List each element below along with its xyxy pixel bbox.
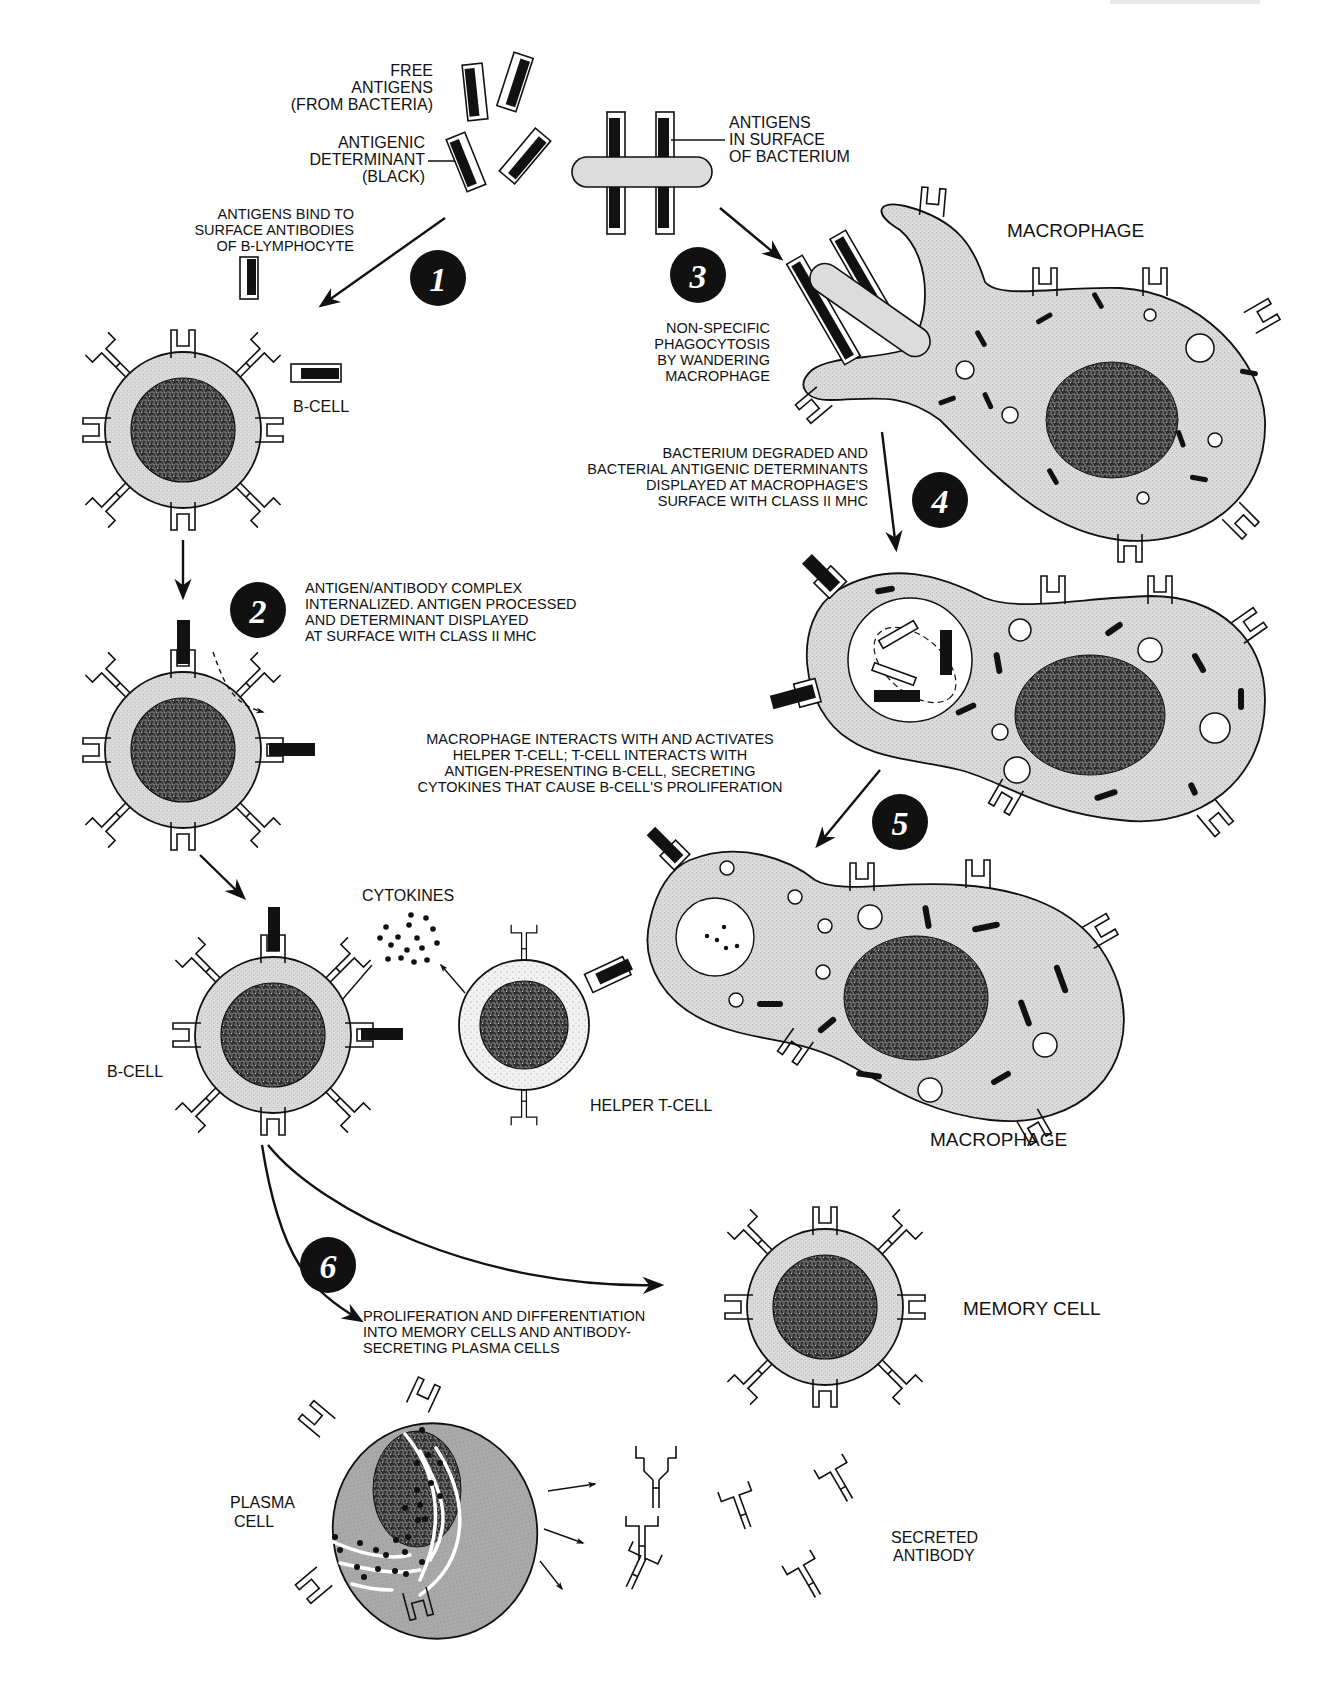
svg-text:1: 1	[430, 261, 447, 298]
svg-text:BY WANDERING: BY WANDERING	[657, 352, 770, 368]
diagram-canvas: FREE ANTIGENS (FROM BACTERIA) ANTIGENIC …	[0, 0, 1334, 1692]
cytokine-secretion-arrow	[441, 965, 465, 993]
interaction-note: MACROPHAGE INTERACTS WITH AND ACTIVATES …	[418, 731, 783, 795]
svg-text:MACROPHAGE INTERACTS WITH AND: MACROPHAGE INTERACTS WITH AND ACTIVATES	[426, 731, 774, 747]
macrophage-2	[769, 550, 1267, 836]
b-cell-1-label: B-CELL	[293, 398, 349, 415]
svg-text:5: 5	[892, 805, 909, 842]
svg-text:MACROPHAGE: MACROPHAGE	[665, 368, 770, 384]
step-1-badge: 1	[410, 250, 466, 306]
svg-text:DETERMINANT: DETERMINANT	[309, 151, 425, 168]
svg-text:6: 6	[320, 1248, 337, 1285]
b-cell-1	[83, 257, 341, 530]
step-2-badge: 2	[230, 582, 286, 638]
b-cell-3	[173, 907, 403, 1135]
svg-text:ANTIGENIC: ANTIGENIC	[338, 134, 425, 151]
svg-text:CYTOKINES THAT CAUSE B-CELL'S: CYTOKINES THAT CAUSE B-CELL'S PROLIFERAT…	[418, 779, 783, 795]
free-antigen-icons	[446, 52, 550, 191]
step-4-badge: 4	[912, 472, 968, 528]
svg-text:ANTIGEN-PRESENTING B-CELL, SEC: ANTIGEN-PRESENTING B-CELL, SECRETING	[445, 763, 756, 779]
svg-text:OF BACTERIUM: OF BACTERIUM	[729, 148, 850, 165]
svg-text:SECRETED: SECRETED	[891, 1529, 978, 1546]
svg-text:PROLIFERATION AND DIFFERENTIAT: PROLIFERATION AND DIFFERENTIATION	[363, 1308, 645, 1324]
internalized-note: ANTIGEN/ANTIBODY COMPLEX INTERNALIZED. A…	[305, 580, 577, 644]
step-6-badge: 6	[300, 1237, 356, 1293]
svg-text:ANTIGENS BIND TO: ANTIGENS BIND TO	[218, 206, 354, 222]
svg-text:(BLACK): (BLACK)	[362, 168, 425, 185]
immune-response-diagram: FREE ANTIGENS (FROM BACTERIA) ANTIGENIC …	[0, 0, 1334, 1692]
svg-text:INTERNALIZED. ANTIGEN PROCESS: INTERNALIZED. ANTIGEN PROCESSED	[305, 596, 577, 612]
helper-t-cell-label: HELPER T-CELL	[590, 1097, 713, 1114]
svg-text:ANTIGENS: ANTIGENS	[729, 114, 811, 131]
svg-text:ANTIBODY: ANTIBODY	[893, 1547, 975, 1564]
bind-note: ANTIGENS BIND TO SURFACE ANTIBODIES OF B…	[194, 206, 354, 254]
svg-text:PLASMA: PLASMA	[230, 1494, 295, 1511]
svg-text:AND DETERMINANT DISPLAYED: AND DETERMINANT DISPLAYED	[305, 612, 528, 628]
cytokine-particles	[377, 912, 440, 965]
svg-text:OF B-LYMPHOCYTE: OF B-LYMPHOCYTE	[217, 238, 355, 254]
step-3-badge: 3	[670, 247, 726, 303]
svg-text:BACTERIUM DEGRADED AND: BACTERIUM DEGRADED AND	[663, 445, 868, 461]
arrow-step-4	[882, 432, 896, 548]
memory-cell	[725, 1207, 925, 1407]
svg-text:PHAGOCYTOSIS: PHAGOCYTOSIS	[654, 336, 770, 352]
b-cell-2	[83, 620, 315, 850]
bacterium-icon	[572, 112, 712, 234]
svg-text:CELL: CELL	[234, 1513, 274, 1530]
step-5-badge: 5	[872, 794, 928, 850]
svg-text:ANTIGEN/ANTIBODY COMPLEX: ANTIGEN/ANTIBODY COMPLEX	[305, 580, 523, 596]
svg-text:AT SURFACE WITH CLASS II MHC: AT SURFACE WITH CLASS II MHC	[305, 628, 537, 644]
svg-text:SECRETING PLASMA CELLS: SECRETING PLASMA CELLS	[363, 1340, 560, 1356]
antigenic-determinant-label: ANTIGENIC DETERMINANT (BLACK)	[309, 134, 466, 185]
plasma-cell	[295, 1377, 557, 1658]
secreted-antibodies	[614, 1446, 863, 1604]
svg-text:BACTERIAL ANTIGENIC DETERMINAN: BACTERIAL ANTIGENIC DETERMINANTS	[587, 461, 868, 477]
svg-text:(FROM BACTERIA): (FROM BACTERIA)	[291, 96, 433, 113]
phagocytosis-note: NON-SPECIFIC PHAGOCYTOSIS BY WANDERING M…	[654, 320, 770, 384]
svg-text:SURFACE ANTIBODIES: SURFACE ANTIBODIES	[194, 222, 354, 238]
svg-text:4: 4	[931, 483, 949, 520]
plasma-cell-label: PLASMA CELL	[230, 1494, 295, 1530]
arrow-to-plasma-cell	[262, 1145, 360, 1320]
memory-cell-label: MEMORY CELL	[963, 1298, 1101, 1319]
cytokines-label: CYTOKINES	[362, 887, 454, 904]
arrow-step-5	[818, 770, 880, 845]
secreted-antibody-label: SECRETED ANTIBODY	[891, 1529, 978, 1564]
degraded-note: BACTERIUM DEGRADED AND BACTERIAL ANTIGEN…	[587, 445, 868, 509]
svg-text:3: 3	[689, 258, 707, 295]
macrophage-3	[643, 823, 1124, 1145]
svg-text:SURFACE WITH CLASS II MHC: SURFACE WITH CLASS II MHC	[658, 493, 868, 509]
arrow-step-3	[720, 208, 780, 258]
macrophage-bottom-label: MACROPHAGE	[930, 1129, 1067, 1150]
svg-text:IN SURFACE: IN SURFACE	[729, 131, 825, 148]
svg-text:DISPLAYED AT MACROPHAGE'S: DISPLAYED AT MACROPHAGE'S	[646, 477, 868, 493]
svg-text:ANTIGENS: ANTIGENS	[351, 79, 433, 96]
macrophage-top-label: MACROPHAGE	[1007, 220, 1144, 241]
svg-text:FREE: FREE	[390, 62, 433, 79]
b-cell-2-label: B-CELL	[107, 1063, 163, 1080]
proliferation-note: PROLIFERATION AND DIFFERENTIATION INTO M…	[363, 1308, 645, 1356]
svg-text:2: 2	[249, 593, 267, 630]
secretion-arrows	[540, 1484, 595, 1589]
helper-t-cell	[459, 925, 635, 1125]
svg-text:NON-SPECIFIC: NON-SPECIFIC	[666, 320, 770, 336]
svg-text:INTO MEMORY CELLS AND ANTIBODY: INTO MEMORY CELLS AND ANTIBODY-	[363, 1324, 631, 1340]
arrow-to-bcell-3	[200, 855, 243, 897]
svg-text:HELPER T-CELL; T-CELL INTERAC: HELPER T-CELL; T-CELL INTERACTS WITH	[453, 747, 748, 763]
free-antigens-label: FREE ANTIGENS (FROM BACTERIA)	[291, 62, 433, 113]
